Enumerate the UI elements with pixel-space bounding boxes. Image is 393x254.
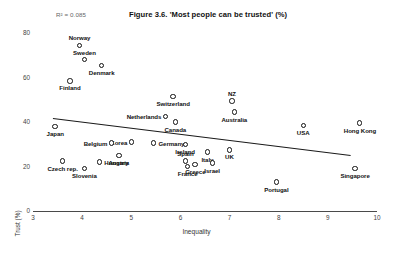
plot-area: NorwaySwedenDenmarkFinlandSwitzerlandNZA… <box>0 0 393 254</box>
data-point-marker <box>60 158 65 163</box>
data-point-label: Singapore <box>340 172 369 179</box>
data-point-label: Portugal <box>264 186 288 193</box>
chart-figure: R² = 0.085 Figure 3.6. 'Most people can … <box>0 0 393 254</box>
x-tick-label: 4 <box>72 214 92 221</box>
data-point-label: Spain <box>177 150 193 157</box>
y-tick-label: 40 <box>4 118 30 125</box>
data-point-marker <box>229 98 234 103</box>
data-point-label: Hungary <box>104 159 128 166</box>
data-point-marker <box>352 166 357 171</box>
data-point-marker <box>227 147 232 152</box>
data-point-label: Denmark <box>89 69 115 76</box>
data-point-marker <box>151 140 156 145</box>
data-point-marker <box>173 119 178 124</box>
x-axis-line <box>33 211 377 212</box>
data-point-label: NZ <box>228 90 236 97</box>
data-point-marker <box>170 94 175 99</box>
data-point-label: Canada <box>165 126 187 133</box>
y-tick-label: 80 <box>4 29 30 36</box>
data-point-label: Belgium <box>84 140 108 147</box>
data-point-marker <box>301 123 306 128</box>
data-point-marker <box>183 142 188 147</box>
data-point-label: Hong Kong <box>344 127 376 134</box>
x-tick-label: 9 <box>318 214 338 221</box>
data-point-marker <box>192 162 197 167</box>
x-tick-label: 10 <box>367 214 387 221</box>
data-point-marker <box>82 166 87 171</box>
data-point-label: Japan <box>47 130 64 137</box>
data-point-marker <box>82 57 87 62</box>
data-point-marker <box>97 159 102 164</box>
data-point-label: Czech rep. <box>47 165 77 172</box>
data-point-label: Israel <box>204 167 220 174</box>
data-point-marker <box>274 179 279 184</box>
data-point-marker <box>205 149 210 154</box>
x-axis-title: Inequality <box>0 228 393 235</box>
x-tick-label: 3 <box>23 214 43 221</box>
data-point-marker <box>183 158 188 163</box>
data-point-label: USA <box>297 129 310 136</box>
data-point-marker <box>67 78 72 83</box>
data-point-label: Netherlands <box>127 113 162 120</box>
y-axis-title-wrap: Trust (%) <box>20 110 21 111</box>
x-tick-label: 5 <box>121 214 141 221</box>
y-tick-label: 60 <box>4 74 30 81</box>
data-point-label: Norway <box>69 34 91 41</box>
data-point-marker <box>52 124 57 129</box>
data-point-marker <box>357 120 362 125</box>
data-point-label: UK <box>225 153 234 160</box>
data-point-marker <box>99 63 104 68</box>
data-point-marker <box>116 153 121 158</box>
data-point-marker <box>77 43 82 48</box>
data-point-label: Slovenia <box>72 172 97 179</box>
data-point-label: Finland <box>59 84 80 91</box>
data-point-label: Switzerland <box>157 100 190 107</box>
y-tick-label: 20 <box>4 163 30 170</box>
data-point-marker <box>129 139 134 144</box>
data-point-label: Australia <box>221 116 247 123</box>
x-tick-label: 7 <box>220 214 240 221</box>
x-tick-label: 8 <box>269 214 289 221</box>
data-point-marker <box>210 160 215 165</box>
data-point-marker <box>232 109 237 114</box>
data-point-marker <box>163 114 168 119</box>
data-point-label: France <box>178 170 198 177</box>
data-point-label: Germany <box>158 140 184 147</box>
x-tick-label: 6 <box>170 214 190 221</box>
data-point-label: Sweden <box>73 49 96 56</box>
